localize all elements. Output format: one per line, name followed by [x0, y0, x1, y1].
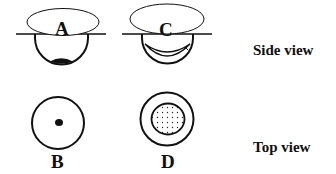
figure-d-top-view: D	[141, 93, 194, 173]
crescent-layer	[145, 44, 190, 56]
figure-label-a: A	[55, 18, 69, 39]
figure-c-side-view: C	[122, 4, 212, 64]
stippled-disc	[152, 104, 185, 135]
figure-label-d: D	[161, 151, 175, 172]
diagram: A C B D Side view Top view	[0, 0, 336, 174]
crescent-tick	[186, 48, 188, 50]
figure-a-side-view: A	[16, 9, 106, 65]
side-view-label: Side view	[253, 42, 314, 58]
figure-b-top-view: B	[32, 97, 84, 172]
top-view-label: Top view	[253, 139, 311, 155]
figure-label-b: B	[51, 151, 64, 172]
central-dot	[55, 119, 63, 126]
figure-label-c: C	[159, 19, 173, 40]
